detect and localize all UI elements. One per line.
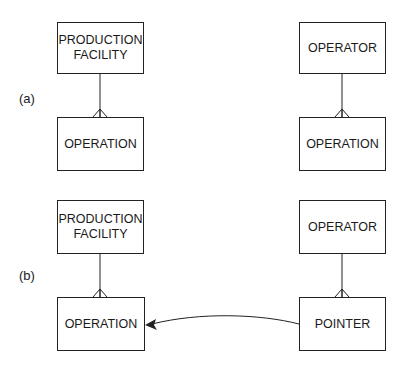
entity-production-facility: PRODUCTION FACILITY [57,200,144,254]
panel-label-b: (b) [19,268,35,283]
crows-foot-icon [93,109,107,117]
pointer-arrow [152,316,299,324]
entity-production-facility: PRODUCTION FACILITY [57,22,144,74]
entity-operation: OPERATION [299,117,386,171]
crows-foot-icon [335,289,349,297]
entity-operator: OPERATOR [299,200,386,254]
crows-foot-icon [335,109,349,117]
arrowhead-icon [145,319,157,330]
panel-label-a: (a) [19,91,35,106]
entity-operator: OPERATOR [299,22,386,74]
entity-pointer: POINTER [299,297,386,351]
entity-operation: OPERATION [57,117,144,171]
entity-operation: OPERATION [57,297,145,351]
crows-foot-icon [93,289,107,297]
